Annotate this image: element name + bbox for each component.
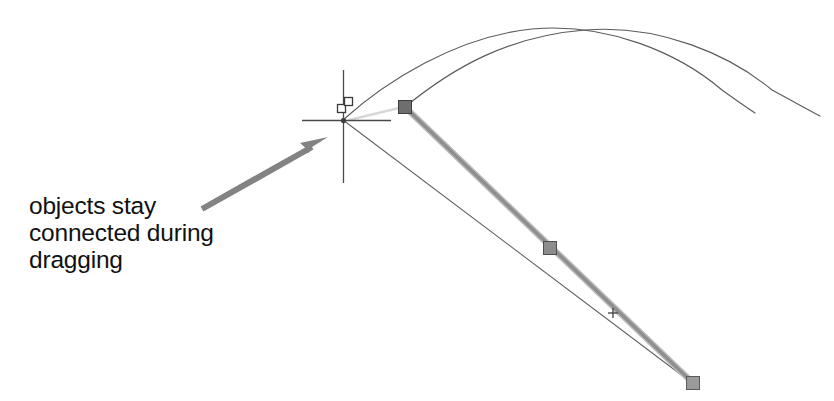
faint-link-line <box>349 108 399 120</box>
snap-crosshair <box>302 70 391 183</box>
handle-bottom[interactable] <box>687 377 700 390</box>
upper-arc-curve[interactable] <box>405 29 820 116</box>
crosshair-anchor-point <box>341 118 346 123</box>
annotation-text: objects stay connected during dragging <box>29 192 259 273</box>
thin-connector-line[interactable] <box>343 120 692 383</box>
drag-cursor-squares <box>338 98 353 113</box>
drag-square-upper <box>345 98 353 106</box>
handle-middle[interactable] <box>544 242 557 255</box>
drawing-canvas[interactable]: objects stay connected during dragging <box>0 0 834 401</box>
handle-top[interactable] <box>399 101 412 114</box>
